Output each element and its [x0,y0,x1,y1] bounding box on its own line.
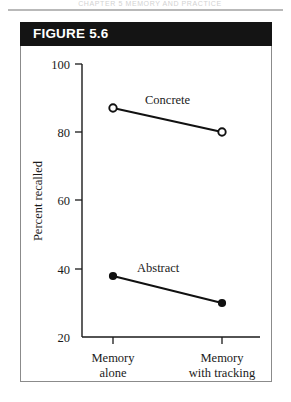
data-point-concrete-2 [218,128,225,135]
data-point-abstract-1 [110,273,117,280]
y-tick-label-40: 40 [58,263,71,277]
x-tick-label-2-line2: with tracking [189,366,256,380]
y-tick-label-80: 80 [58,126,71,140]
y-tick-label-60: 60 [58,194,71,208]
y-axis-title: Percent recalled [31,160,45,241]
series-label-concrete: Concrete [145,93,191,107]
chart-plot-area: 100 80 60 40 20 Percent recalled Memory … [20,46,272,382]
series-line-abstract [113,276,222,303]
y-tick-label-100: 100 [51,58,70,72]
page-running-head: CHAPTER 5 MEMORY AND PRACTICE [30,0,270,9]
series-line-concrete [113,108,222,132]
data-point-abstract-2 [219,300,226,307]
page-header-rule [8,9,283,11]
line-chart: 100 80 60 40 20 Percent recalled Memory … [20,46,272,382]
x-tick-label-1-line1: Memory [91,351,135,365]
x-tick-label-1-line2: alone [99,366,127,380]
x-tick-label-2-line1: Memory [200,351,244,365]
figure-number-label: FIGURE 5.6 [33,26,109,41]
x-axis-ticks [113,337,222,344]
data-point-concrete-1 [109,104,116,111]
y-tick-label-20: 20 [58,331,71,345]
y-axis-ticks [75,64,82,269]
series-label-abstract: Abstract [137,261,180,275]
